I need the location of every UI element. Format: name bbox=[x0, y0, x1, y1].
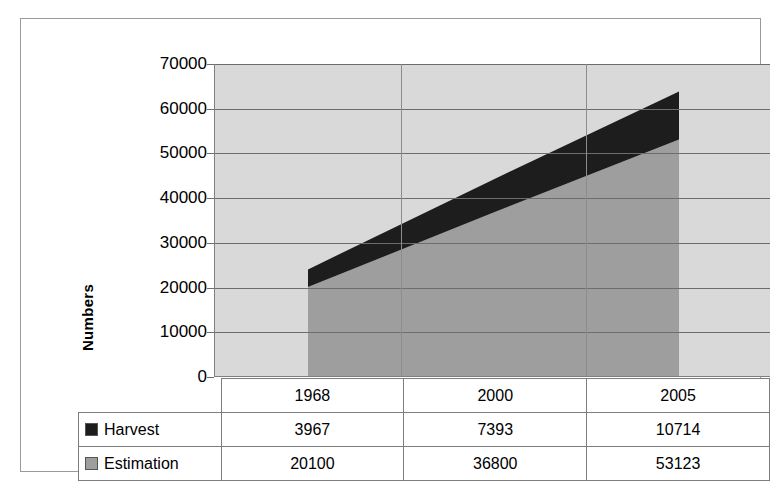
y-axis-tick-mark bbox=[207, 288, 214, 289]
horizontal-gridline bbox=[215, 109, 770, 110]
y-axis-tick-label: 70000 bbox=[143, 55, 207, 72]
data-table: 196820002005Harvest3967739310714Estimati… bbox=[78, 378, 770, 481]
plot-inner bbox=[215, 64, 770, 376]
gray-square-marker bbox=[85, 457, 98, 470]
chart-screenshot: Numbers 70000600005000040000300002000010… bbox=[0, 0, 777, 492]
y-axis-tick-mark bbox=[207, 243, 214, 244]
y-axis-tick-mark bbox=[207, 109, 214, 110]
y-axis-tick-label: 10000 bbox=[143, 323, 207, 340]
y-axis-title: Numbers bbox=[79, 258, 96, 378]
legend-entry-estimation: Estimation bbox=[79, 447, 222, 481]
table-row: Estimation201003680053123 bbox=[79, 447, 770, 481]
horizontal-gridline bbox=[215, 288, 770, 289]
table-cell: 53123 bbox=[587, 447, 770, 481]
chart-frame: Numbers 70000600005000040000300002000010… bbox=[20, 18, 761, 472]
y-axis-tick-label: 20000 bbox=[143, 279, 207, 296]
table-header-year: 2000 bbox=[404, 379, 587, 413]
black-square-marker bbox=[85, 423, 98, 436]
table-header-year: 2005 bbox=[587, 379, 770, 413]
table-header-row: 196820002005 bbox=[79, 379, 770, 413]
y-axis-tick-label: 40000 bbox=[143, 189, 207, 206]
table-cell: 36800 bbox=[404, 447, 587, 481]
y-axis-tick-mark bbox=[207, 332, 214, 333]
stacked-area-series bbox=[215, 64, 770, 376]
horizontal-gridline bbox=[215, 198, 770, 199]
y-axis-tick-label: 60000 bbox=[143, 100, 207, 117]
y-axis-tick-mark bbox=[207, 64, 214, 65]
table-header-year: 1968 bbox=[221, 379, 404, 413]
plot-area bbox=[214, 64, 770, 377]
table-cell: 10714 bbox=[587, 413, 770, 447]
y-axis-tick-label: 50000 bbox=[143, 144, 207, 161]
y-axis-tick-label: 30000 bbox=[143, 234, 207, 251]
table-cell: 7393 bbox=[404, 413, 587, 447]
vertical-gridline bbox=[401, 64, 402, 376]
legend-label: Estimation bbox=[104, 455, 179, 473]
table-cell: 20100 bbox=[221, 447, 404, 481]
horizontal-gridline bbox=[215, 243, 770, 244]
table-header-corner bbox=[79, 379, 222, 413]
table-row: Harvest3967739310714 bbox=[79, 413, 770, 447]
vertical-gridline bbox=[586, 64, 587, 376]
y-axis-title-host: Numbers bbox=[49, 159, 89, 299]
y-axis-ticks: 700006000050000400003000020000100000 bbox=[141, 64, 207, 377]
table-cell: 3967 bbox=[221, 413, 404, 447]
y-axis-tick-mark bbox=[207, 377, 214, 378]
legend-entry-harvest: Harvest bbox=[79, 413, 222, 447]
horizontal-gridline bbox=[215, 332, 770, 333]
horizontal-gridline bbox=[215, 64, 770, 65]
y-axis-tick-mark bbox=[207, 198, 214, 199]
legend-label: Harvest bbox=[104, 421, 159, 439]
y-axis-tick-mark bbox=[207, 153, 214, 154]
horizontal-gridline bbox=[215, 153, 770, 154]
